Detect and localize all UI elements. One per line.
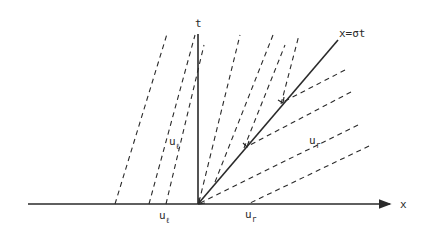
shock-label: x=σt xyxy=(339,28,366,39)
arrowhead-icon xyxy=(278,97,284,103)
t-axis-label: t xyxy=(195,18,202,29)
left-characteristic xyxy=(149,35,195,204)
upper-characteristic xyxy=(215,35,273,182)
upper-right-characteristics xyxy=(199,35,299,202)
u-right-label-upper: ur xyxy=(309,135,320,146)
u-left-base: u xyxy=(159,209,166,222)
u-right-sub: r xyxy=(316,141,321,150)
upper-characteristic xyxy=(244,45,285,148)
right-characteristic xyxy=(248,92,351,146)
left-characteristic xyxy=(115,34,167,204)
left-characteristics xyxy=(115,34,204,204)
right-characteristic xyxy=(200,125,358,203)
u-left-sub: ℓ xyxy=(166,216,170,225)
u-left-label-axis: uℓ xyxy=(159,210,169,221)
lower-right-characteristics xyxy=(200,70,369,204)
u-right-base: u xyxy=(245,208,252,221)
u-right-base: u xyxy=(309,134,316,147)
x-axis-label: x xyxy=(400,199,407,210)
u-left-base: u xyxy=(169,135,176,148)
right-characteristic xyxy=(283,70,345,102)
u-left-sub: ℓ xyxy=(176,142,180,151)
upper-characteristic xyxy=(281,35,299,104)
upper-characteristic xyxy=(199,35,240,202)
u-right-label-axis: ur xyxy=(245,209,256,220)
right-characteristic xyxy=(248,146,369,204)
u-left-label-upper: uℓ xyxy=(169,136,179,147)
u-right-sub: r xyxy=(252,215,257,224)
